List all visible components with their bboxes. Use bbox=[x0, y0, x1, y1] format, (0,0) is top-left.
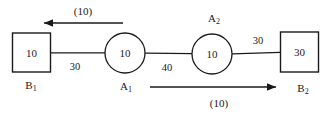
edge-capacity-b1-a1: 30 bbox=[70, 62, 81, 73]
node-label-b2: B2 bbox=[297, 83, 308, 94]
network-flow-diagram: 10 10 10 30 B1 A1 A2 B2 30 40 30 (10) (1… bbox=[0, 0, 326, 118]
node-value-a2: 10 bbox=[207, 49, 218, 60]
node-label-a1-text: A bbox=[120, 80, 128, 92]
node-value-b1: 10 bbox=[26, 47, 37, 58]
node-label-b1-sub: 1 bbox=[33, 84, 37, 93]
node-label-a2: A2 bbox=[208, 13, 220, 24]
node-value-a1: 10 bbox=[120, 48, 131, 59]
node-label-a1: A1 bbox=[120, 81, 132, 92]
node-label-b2-sub: 2 bbox=[305, 87, 309, 96]
flow-label-top: (10) bbox=[74, 6, 92, 17]
node-label-b1: B1 bbox=[25, 80, 36, 91]
diagram-canvas bbox=[0, 0, 326, 118]
node-label-a1-sub: 1 bbox=[128, 85, 132, 94]
edge-line-a2-b2 bbox=[232, 52, 281, 53]
flow-label-bottom: (10) bbox=[210, 98, 228, 109]
edge-capacity-a1-a2: 40 bbox=[162, 63, 173, 74]
node-label-a2-text: A bbox=[208, 12, 216, 24]
edge-capacity-a2-b2: 30 bbox=[253, 36, 264, 47]
node-label-a2-sub: 2 bbox=[216, 17, 220, 26]
node-value-b2: 30 bbox=[294, 47, 305, 58]
